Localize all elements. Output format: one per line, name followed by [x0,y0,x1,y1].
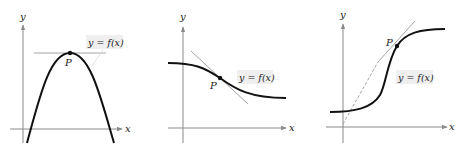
point-p [395,44,399,48]
tangent-line-dashed [343,62,378,124]
point-label: P [209,80,217,91]
point-label: P [64,57,72,68]
point-p [68,51,72,55]
panel-1: y x y = f(x) P [10,11,131,143]
point-label: P [385,37,393,48]
function-label: y = f(x) [397,72,434,83]
x-axis-label: x [125,123,131,134]
x-axis-label: x [289,122,295,133]
y-axis-label: y [339,9,346,20]
y-axis-label: y [19,11,26,22]
figure-canvas: y x y = f(x) P y x y = f(x) P y x y = f(… [0,0,457,150]
function-label: y = f(x) [87,37,124,48]
y-axis-label: y [179,11,186,22]
point-p [218,76,222,80]
panel-2: y x y = f(x) P [168,11,295,143]
label-leader [92,48,104,66]
tangent-line [378,21,415,62]
function-label: y = f(x) [238,72,275,83]
panel-3: y x y = f(x) P [326,9,455,143]
x-axis-label: x [449,121,455,132]
